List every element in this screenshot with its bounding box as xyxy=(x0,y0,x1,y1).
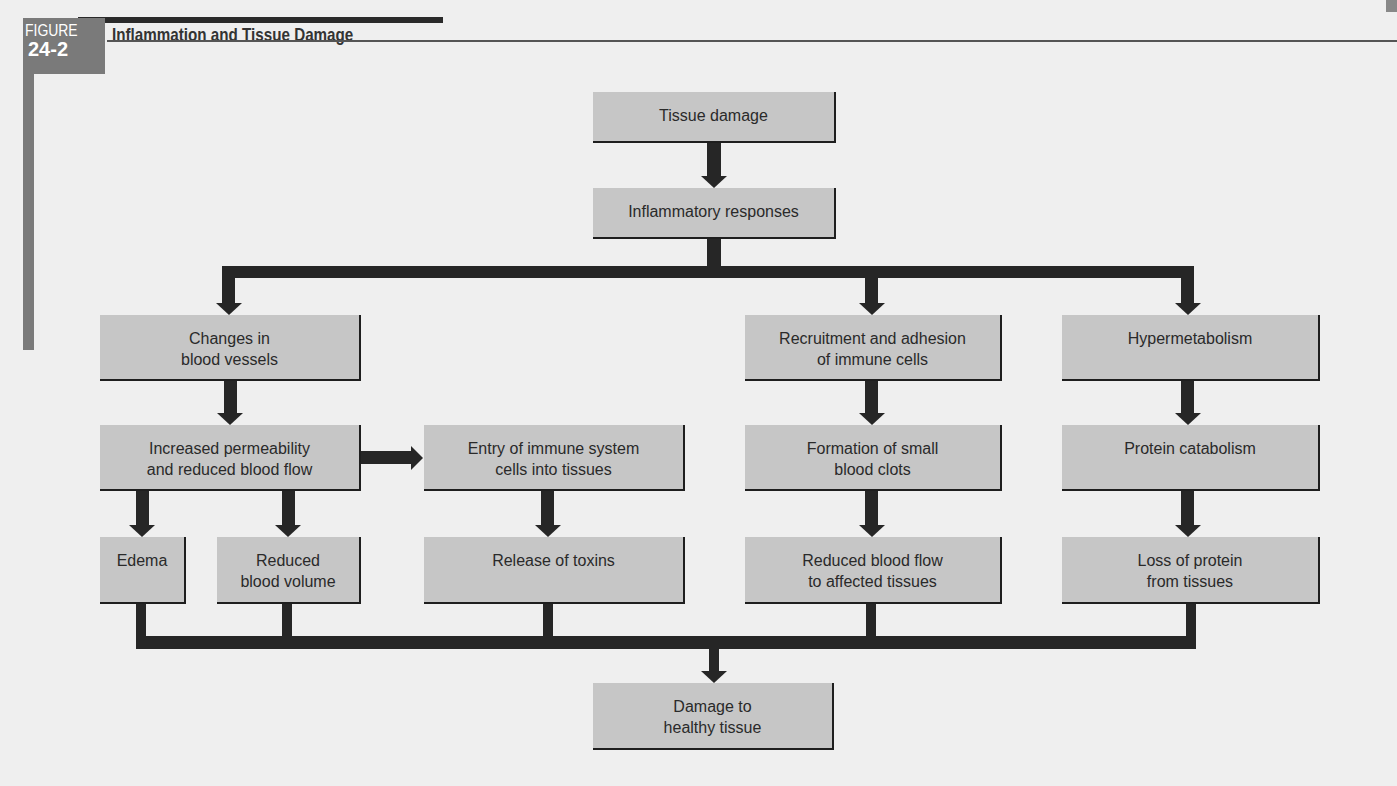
arrow-right-icon xyxy=(411,446,423,470)
node-label: Hypermetabolism xyxy=(1128,328,1252,349)
arrow-down-icon xyxy=(859,525,885,537)
connector xyxy=(1181,380,1194,413)
connector xyxy=(709,649,719,671)
figure-badge: FIGURE 24-2 xyxy=(23,18,105,74)
node-label: Formation of small blood clots xyxy=(807,438,939,480)
node-label: Protein catabolism xyxy=(1124,438,1256,459)
node-protein-catabolism: Protein catabolism xyxy=(1062,425,1320,491)
node-entry-immune-cells: Entry of immune system cells into tissue… xyxy=(424,425,685,491)
node-changes-blood-vessels: Changes in blood vessels xyxy=(100,315,361,381)
arrow-down-icon xyxy=(275,525,301,537)
node-formation-clots: Formation of small blood clots xyxy=(745,425,1002,491)
node-label: Recruitment and adhesion of immune cells xyxy=(779,328,966,370)
arrow-down-icon xyxy=(859,303,885,315)
title-rule xyxy=(107,40,1397,42)
node-label: Damage to healthy tissue xyxy=(664,696,762,738)
node-loss-protein: Loss of protein from tissues xyxy=(1062,537,1320,604)
node-label: Reduced blood volume xyxy=(240,550,335,592)
connector xyxy=(282,490,295,525)
merge-bar-bottom xyxy=(136,636,1196,649)
node-label: Changes in blood vessels xyxy=(181,328,278,370)
node-label: Reduced blood flow to affected tissues xyxy=(802,550,943,592)
branch-bar-top xyxy=(222,266,1194,278)
connector xyxy=(865,490,878,525)
node-tissue-damage: Tissue damage xyxy=(593,92,836,143)
node-label: Entry of immune system cells into tissue… xyxy=(468,438,640,480)
node-damage-healthy-tissue: Damage to healthy tissue xyxy=(593,683,834,750)
node-label: Edema xyxy=(117,550,168,571)
left-accent-stripe xyxy=(23,74,34,350)
node-label: Increased permeability and reduced blood… xyxy=(147,438,312,480)
connector xyxy=(865,266,878,303)
connector xyxy=(360,451,411,464)
figure-title: Inflammation and Tissue Damage xyxy=(112,24,353,46)
node-inflammatory-responses: Inflammatory responses xyxy=(593,188,836,239)
connector xyxy=(1181,266,1194,303)
node-label: Release of toxins xyxy=(492,550,615,571)
arrow-down-icon xyxy=(129,525,155,537)
connector xyxy=(136,490,149,525)
node-increased-permeability: Increased permeability and reduced blood… xyxy=(100,425,361,491)
header-top-bar xyxy=(78,17,443,23)
connector xyxy=(865,380,878,413)
node-hypermetabolism: Hypermetabolism xyxy=(1062,315,1320,381)
node-reduced-blood-volume: Reduced blood volume xyxy=(217,537,361,604)
arrow-down-icon xyxy=(701,176,727,188)
node-recruitment-adhesion: Recruitment and adhesion of immune cells xyxy=(745,315,1002,381)
arrow-down-icon xyxy=(216,303,242,315)
node-label: Loss of protein from tissues xyxy=(1138,550,1243,592)
connector xyxy=(541,490,554,525)
connector xyxy=(1181,490,1194,525)
page-corner-tab xyxy=(1386,0,1397,12)
node-label: Inflammatory responses xyxy=(628,201,799,222)
connector xyxy=(707,142,721,176)
node-release-toxins: Release of toxins xyxy=(424,537,685,604)
arrow-down-icon xyxy=(1175,303,1201,315)
node-reduced-blood-flow: Reduced blood flow to affected tissues xyxy=(745,537,1002,604)
arrow-down-icon xyxy=(701,671,727,683)
figure-number: 24-2 xyxy=(28,38,68,61)
connector xyxy=(222,266,235,303)
arrow-down-icon xyxy=(859,413,885,425)
arrow-down-icon xyxy=(217,413,243,425)
connector xyxy=(224,380,237,413)
node-edema: Edema xyxy=(100,537,186,604)
node-label: Tissue damage xyxy=(659,105,768,126)
arrow-down-icon xyxy=(1175,413,1201,425)
arrow-down-icon xyxy=(535,525,561,537)
arrow-down-icon xyxy=(1175,525,1201,537)
